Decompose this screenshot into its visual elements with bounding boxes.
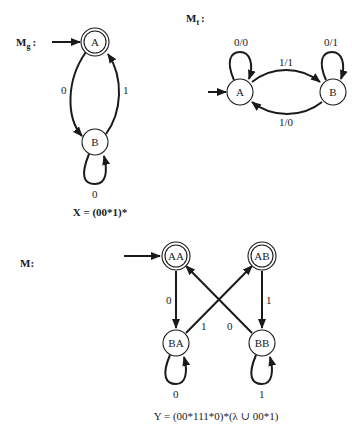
m-title: M: bbox=[20, 257, 34, 269]
mt-edge-label-01: 0/1 bbox=[324, 36, 338, 48]
m-edge-label-AB-BB: 1 bbox=[266, 294, 272, 306]
mt-edge-label-00: 0/0 bbox=[234, 36, 249, 48]
mg-state-A: A bbox=[81, 28, 109, 56]
mt-edge-label-11: 1/1 bbox=[279, 56, 293, 68]
svg-text:BA: BA bbox=[168, 337, 183, 349]
machine-mt: Mt: 0/0 1/1 1/0 0/1 A B bbox=[186, 12, 346, 128]
mg-edge-A-B bbox=[70, 52, 86, 136]
automata-diagram: Mg: 0 1 0 A B X = (00*1)* Mt: 0/0 bbox=[0, 0, 352, 428]
svg-text:A: A bbox=[91, 36, 99, 48]
svg-text:BB: BB bbox=[255, 337, 270, 349]
mt-title: Mt: bbox=[186, 12, 205, 27]
svg-text:AB: AB bbox=[254, 250, 269, 262]
mg-state-B: B bbox=[82, 129, 108, 155]
mt-edge-B-A bbox=[252, 102, 322, 114]
svg-text:B: B bbox=[329, 86, 336, 98]
mg-edge-B-B bbox=[84, 154, 106, 184]
m-caption: Y = (00*111*0)*(λ ∪ 00*1) bbox=[154, 410, 279, 423]
mg-title: Mg: bbox=[16, 36, 36, 51]
mt-edge-A-B bbox=[252, 70, 320, 82]
svg-text:AA: AA bbox=[168, 250, 184, 262]
m-edge-label-AA-BA: 0 bbox=[166, 294, 172, 306]
mg-edge-label-loop: 0 bbox=[92, 188, 98, 200]
m-edge-label-BA-AB: 1 bbox=[201, 320, 207, 332]
machine-mg: Mg: 0 1 0 A B X = (00*1)* bbox=[16, 28, 129, 219]
m-edge-BB-BB bbox=[251, 355, 272, 384]
mt-state-B: B bbox=[320, 79, 346, 105]
machine-m: M: 0 1 1 0 0 1 AA AB bbox=[20, 242, 279, 423]
m-edge-label-BB-AA: 0 bbox=[227, 320, 233, 332]
mt-state-A: A bbox=[227, 79, 253, 105]
mg-edge-label-1: 1 bbox=[123, 84, 129, 96]
mt-edge-A-A bbox=[230, 52, 251, 80]
m-edge-label-BA-loop: 0 bbox=[173, 388, 179, 400]
svg-text:B: B bbox=[91, 136, 98, 148]
mt-edge-label-10: 1/0 bbox=[279, 116, 294, 128]
m-state-BB: BB bbox=[249, 330, 275, 356]
mg-caption: X = (00*1)* bbox=[73, 206, 128, 219]
mg-edge-label-0: 0 bbox=[61, 84, 67, 96]
m-state-BA: BA bbox=[163, 330, 189, 356]
mt-edge-B-B bbox=[322, 52, 343, 80]
m-edge-label-BB-loop: 1 bbox=[259, 388, 265, 400]
mg-edge-B-A bbox=[106, 54, 119, 134]
m-state-AB: AB bbox=[248, 242, 276, 270]
m-edge-BA-BA bbox=[165, 355, 186, 384]
m-state-AA: AA bbox=[162, 242, 190, 270]
svg-text:A: A bbox=[236, 86, 244, 98]
